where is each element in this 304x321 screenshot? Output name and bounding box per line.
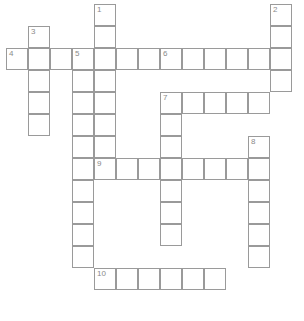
crossword-cell[interactable] (72, 202, 94, 224)
crossword-cell[interactable] (94, 114, 116, 136)
crossword-cell[interactable] (94, 70, 116, 92)
crossword-cell[interactable] (160, 114, 182, 136)
crossword-cell[interactable] (160, 158, 182, 180)
crossword-cell[interactable] (28, 114, 50, 136)
crossword-cell[interactable] (248, 180, 270, 202)
clue-number: 9 (97, 159, 101, 169)
crossword-cell[interactable]: 5 (72, 48, 94, 70)
crossword-cell[interactable] (72, 114, 94, 136)
clue-number: 7 (163, 93, 167, 103)
crossword-cell[interactable] (248, 246, 270, 268)
crossword-cell[interactable] (226, 48, 248, 70)
crossword-cell[interactable] (28, 70, 50, 92)
crossword-cell[interactable] (270, 48, 292, 70)
crossword-cell[interactable] (160, 180, 182, 202)
crossword-cell[interactable] (226, 92, 248, 114)
crossword-cell[interactable] (248, 202, 270, 224)
crossword-cell[interactable]: 3 (28, 26, 50, 48)
crossword-cell[interactable] (182, 268, 204, 290)
crossword-cell[interactable] (248, 92, 270, 114)
crossword-cell[interactable] (226, 158, 248, 180)
crossword-cell[interactable] (72, 224, 94, 246)
crossword-cell[interactable]: 2 (270, 4, 292, 26)
crossword-cell[interactable] (160, 202, 182, 224)
crossword-cell[interactable] (138, 268, 160, 290)
crossword-cell[interactable] (248, 224, 270, 246)
crossword-cell[interactable]: 1 (94, 4, 116, 26)
crossword-cell[interactable] (94, 136, 116, 158)
crossword-cell[interactable] (94, 48, 116, 70)
crossword-cell[interactable] (182, 92, 204, 114)
crossword-cell[interactable] (160, 224, 182, 246)
crossword-cell[interactable]: 10 (94, 268, 116, 290)
crossword-cell[interactable] (204, 158, 226, 180)
crossword-cell[interactable] (270, 70, 292, 92)
crossword-cell[interactable]: 6 (160, 48, 182, 70)
crossword-cell[interactable] (28, 92, 50, 114)
crossword-cell[interactable]: 9 (94, 158, 116, 180)
crossword-cell[interactable] (138, 158, 160, 180)
crossword-cell[interactable] (160, 136, 182, 158)
crossword-cell[interactable]: 8 (248, 136, 270, 158)
crossword-cell[interactable] (94, 92, 116, 114)
crossword-cell[interactable] (72, 70, 94, 92)
crossword-cell[interactable]: 7 (160, 92, 182, 114)
crossword-cell[interactable] (94, 26, 116, 48)
crossword-cell[interactable] (160, 268, 182, 290)
crossword-cell[interactable] (182, 48, 204, 70)
clue-number: 1 (97, 5, 101, 15)
crossword-cell[interactable] (72, 136, 94, 158)
crossword-cell[interactable] (248, 158, 270, 180)
crossword-cell[interactable] (116, 268, 138, 290)
crossword-cell[interactable] (204, 268, 226, 290)
crossword-cell[interactable] (138, 48, 160, 70)
crossword-cell[interactable] (50, 48, 72, 70)
clue-number: 5 (75, 49, 79, 59)
crossword-grid[interactable]: 12345678910 (0, 0, 304, 321)
clue-number: 8 (251, 137, 255, 147)
crossword-cell[interactable] (116, 48, 138, 70)
crossword-cell[interactable] (72, 158, 94, 180)
crossword-cell[interactable]: 4 (6, 48, 28, 70)
clue-number: 4 (9, 49, 13, 59)
crossword-cell[interactable] (270, 26, 292, 48)
crossword-cell[interactable] (116, 158, 138, 180)
crossword-cell[interactable] (182, 158, 204, 180)
crossword-cell[interactable] (72, 246, 94, 268)
clue-number: 6 (163, 49, 167, 59)
crossword-cell[interactable] (204, 92, 226, 114)
crossword-cell[interactable] (28, 48, 50, 70)
clue-number: 10 (97, 269, 106, 279)
crossword-cell[interactable] (72, 92, 94, 114)
crossword-cell[interactable] (204, 48, 226, 70)
clue-number: 2 (273, 5, 277, 15)
crossword-cell[interactable] (72, 180, 94, 202)
clue-number: 3 (31, 27, 35, 37)
crossword-cell[interactable] (248, 48, 270, 70)
